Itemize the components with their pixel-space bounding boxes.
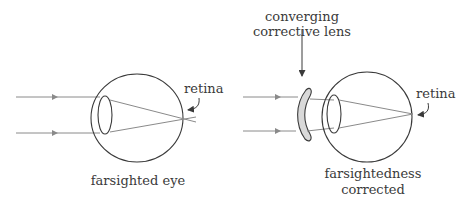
refracted-ray-top (110, 100, 196, 122)
eye-lens-icon (98, 96, 112, 134)
farsightedness-diagram: retina farsighted eye converging correct… (0, 0, 460, 214)
retina-label-right: retina (416, 86, 455, 102)
refracted-ray-bottom-corrected (339, 114, 413, 128)
eye-lens-icon-corrected (327, 95, 341, 133)
lens-label-line2: corrective lens (252, 24, 352, 40)
lens-label-line1: converging (252, 9, 352, 25)
retina-label-left: retina (184, 81, 223, 97)
corrected-eye-group (243, 30, 429, 162)
refracted-ray-top-corrected (339, 100, 413, 114)
farsighted-eye-group (16, 74, 199, 162)
eyeball-icon (91, 74, 183, 162)
caption-corrected-line2: corrected (318, 182, 428, 198)
corrective-lens-icon (298, 88, 312, 140)
retina-pointer-arrow-left (188, 98, 199, 110)
caption-corrected-line1: farsightedness (318, 166, 428, 182)
retina-pointer-arrow-right (418, 103, 429, 115)
caption-farsighted-eye: farsighted eye (88, 173, 188, 189)
